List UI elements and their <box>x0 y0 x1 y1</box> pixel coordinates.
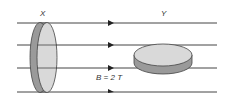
arrow-icons <box>108 20 114 93</box>
label-y: Y <box>161 9 166 18</box>
disc-y <box>134 44 192 74</box>
field-strength-label: B = 2 T <box>96 73 122 82</box>
magnetic-field-diagram: X Y B = 2 T <box>0 0 236 93</box>
label-x: X <box>40 9 45 18</box>
disc-x <box>30 23 57 93</box>
